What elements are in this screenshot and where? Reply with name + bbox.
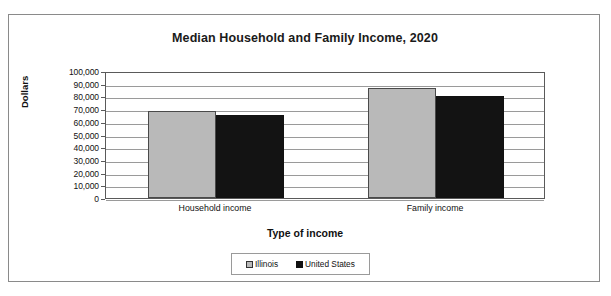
y-axis-tick-label: 100,000 bbox=[69, 67, 99, 77]
y-axis-tick-label: 90,000 bbox=[74, 80, 99, 90]
legend-label-united-states: United States bbox=[305, 259, 355, 269]
y-axis-tick-label: 80,000 bbox=[74, 92, 99, 102]
x-axis-label-household-income: Household income bbox=[179, 203, 252, 213]
y-axis-tick-label: 40,000 bbox=[74, 143, 99, 153]
bar-united-states-household-income bbox=[216, 115, 284, 198]
legend-swatch-illinois-icon bbox=[246, 261, 253, 268]
y-axis-tick-label: 10,000 bbox=[74, 181, 99, 191]
bar-illinois-household-income bbox=[148, 111, 216, 198]
legend-swatch-united-states-icon bbox=[296, 261, 303, 268]
x-axis-category-labels: Household incomeFamily income bbox=[105, 203, 545, 219]
plot-area bbox=[105, 72, 545, 199]
chart-title: Median Household and Family Income, 2020 bbox=[9, 31, 601, 45]
bar-series-container bbox=[106, 73, 544, 198]
y-axis-tick-label: 60,000 bbox=[74, 118, 99, 128]
y-axis-tick-label: 0 bbox=[94, 194, 99, 204]
legend-label-illinois: Illinois bbox=[255, 259, 278, 269]
legend-item-united-states: United States bbox=[296, 259, 355, 269]
x-axis-title: Type of income bbox=[9, 227, 601, 239]
legend-item-illinois: Illinois bbox=[246, 259, 278, 269]
gridline bbox=[106, 200, 544, 201]
chart-frame: Median Household and Family Income, 2020… bbox=[8, 14, 600, 282]
chart-legend: Illinois United States bbox=[231, 253, 370, 275]
y-axis-tick-mark bbox=[101, 199, 105, 200]
y-axis-ticks: 100,00090,00080,00070,00060,00050,00040,… bbox=[9, 72, 105, 199]
y-axis-tick-label: 70,000 bbox=[74, 105, 99, 115]
x-axis-label-family-income: Family income bbox=[407, 203, 464, 213]
y-axis-tick-label: 20,000 bbox=[74, 169, 99, 179]
chart-page: Median Household and Family Income, 2020… bbox=[0, 0, 611, 296]
y-axis-tick-label: 30,000 bbox=[74, 156, 99, 166]
bar-united-states-family-income bbox=[436, 96, 504, 198]
y-axis-tick-label: 50,000 bbox=[74, 131, 99, 141]
bar-illinois-family-income bbox=[368, 88, 436, 198]
